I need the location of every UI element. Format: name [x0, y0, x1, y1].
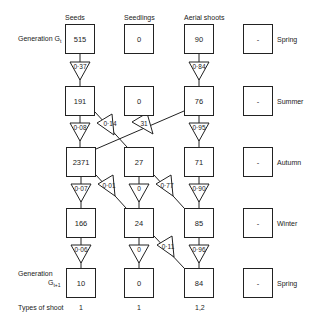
box-other-autumn: -	[243, 147, 273, 177]
svg-text:0·77: 0·77	[160, 182, 173, 189]
box-seeds-autumn: 2371	[66, 147, 96, 177]
svg-text:0·07: 0·07	[74, 185, 87, 192]
box-other-spring: -	[243, 24, 273, 54]
types-aerial: 1,2	[195, 304, 205, 311]
generation-t1-sub: Gt+1	[48, 279, 61, 288]
svg-text:0·11: 0·11	[162, 243, 175, 250]
box-aerial-spring2: 84	[184, 268, 214, 298]
box-aerial-summer: 76	[184, 86, 214, 116]
svg-text:0·37: 0·37	[73, 63, 86, 70]
box-other-winter: -	[243, 208, 273, 238]
svg-text:0: 0	[137, 246, 141, 253]
types-seedlings: 1	[137, 304, 141, 311]
box-aerial-winter: 85	[184, 208, 214, 238]
box-aerial-autumn: 71	[184, 147, 214, 177]
box-seeds-spring: 515	[65, 24, 95, 54]
svg-text:0·01: 0·01	[102, 182, 115, 189]
box-seeds-summer: 191	[65, 86, 95, 116]
svg-text:0·06: 0·06	[74, 246, 87, 253]
generation-t1-label: Generation	[18, 270, 53, 277]
column-header-aerial: Aerial shoots	[184, 14, 224, 21]
column-header-seeds: Seeds	[65, 14, 85, 21]
season-autumn: Autumn	[277, 159, 301, 166]
svg-text:0·95: 0·95	[192, 124, 205, 131]
svg-text:0·90: 0·90	[192, 185, 205, 192]
box-seedlings-summer: 0	[124, 86, 154, 116]
box-other-spring2: -	[243, 268, 273, 298]
svg-text:0: 0	[137, 185, 141, 192]
generation-t-label: Generation Gt	[18, 35, 61, 44]
box-other-summer: -	[243, 86, 273, 116]
types-seeds: 1	[79, 304, 83, 311]
box-seeds-winter: 166	[66, 208, 96, 238]
svg-text:0·84: 0·84	[192, 63, 205, 70]
season-spring2: Spring	[277, 280, 297, 287]
svg-text:0·96: 0·96	[192, 246, 205, 253]
box-seedlings-spring2: 0	[124, 268, 154, 298]
svg-text:0·08: 0·08	[73, 124, 86, 131]
svg-text:31: 31	[140, 120, 148, 127]
season-winter: Winter	[277, 220, 297, 227]
season-spring: Spring	[277, 36, 297, 43]
types-of-shoot-label: Types of shoot	[18, 304, 64, 311]
column-header-seedlings: Seedlings	[124, 14, 155, 21]
svg-text:0·14: 0·14	[103, 120, 116, 127]
box-seedlings-winter: 24	[124, 208, 154, 238]
box-seeds-spring2: 10	[66, 268, 96, 298]
box-seedlings-autumn: 27	[124, 147, 154, 177]
season-summer: Summer	[277, 98, 303, 105]
box-aerial-spring: 90	[184, 24, 214, 54]
box-seedlings-spring: 0	[124, 24, 154, 54]
